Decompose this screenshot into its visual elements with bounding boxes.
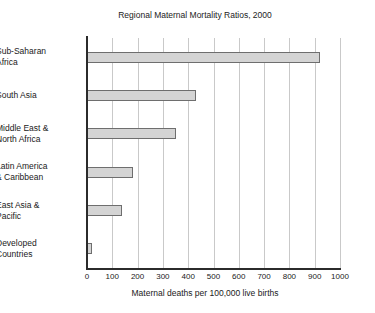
y-tick-label-line: Pacific bbox=[0, 211, 82, 222]
bar[interactable] bbox=[87, 243, 92, 254]
gridline bbox=[214, 38, 215, 268]
gridline bbox=[289, 38, 290, 268]
x-axis-line bbox=[86, 268, 341, 270]
gridline bbox=[112, 38, 113, 268]
y-tick-label: Middle East &North Africa bbox=[0, 123, 82, 145]
bar-row bbox=[87, 52, 340, 63]
y-axis-line bbox=[86, 36, 88, 270]
y-tick-label-line: Sub-Saharan bbox=[0, 46, 82, 57]
gridline bbox=[188, 38, 189, 268]
x-axis-label: Maternal deaths per 100,000 live births bbox=[60, 288, 350, 298]
bar-row bbox=[87, 128, 340, 139]
x-tick-label: 1000 bbox=[325, 272, 355, 281]
y-tick-label-line: Latin America bbox=[0, 161, 82, 172]
bar-row bbox=[87, 205, 340, 216]
chart-figure: Regional Maternal Mortality Ratios, 2000… bbox=[0, 0, 375, 313]
plot-area bbox=[87, 38, 340, 268]
y-tick-label-line: North Africa bbox=[0, 134, 82, 145]
y-tick-label-line: Middle East & bbox=[0, 123, 82, 134]
bar[interactable] bbox=[87, 52, 320, 63]
y-tick-label: East Asia &Pacific bbox=[0, 200, 82, 222]
bar-row bbox=[87, 243, 340, 254]
y-tick-label-line: & Caribbean bbox=[0, 172, 82, 183]
bar-row bbox=[87, 90, 340, 101]
gridline bbox=[340, 38, 341, 268]
y-tick-label-line: East Asia & bbox=[0, 200, 82, 211]
gridline bbox=[138, 38, 139, 268]
gridline bbox=[264, 38, 265, 268]
gridline bbox=[315, 38, 316, 268]
y-tick-label: South Asia bbox=[0, 90, 82, 101]
bar[interactable] bbox=[87, 90, 196, 101]
y-tick-label-line: Countries bbox=[0, 249, 82, 260]
y-tick-label-line: Africa bbox=[0, 57, 82, 68]
gridline bbox=[239, 38, 240, 268]
chart-title: Regional Maternal Mortality Ratios, 2000 bbox=[60, 10, 330, 20]
gridline bbox=[163, 38, 164, 268]
bar[interactable] bbox=[87, 128, 176, 139]
y-tick-label-line: Developed bbox=[0, 238, 82, 249]
bar-row bbox=[87, 167, 340, 178]
y-tick-label-line: South Asia bbox=[0, 90, 82, 101]
y-tick-label: DevelopedCountries bbox=[0, 238, 82, 260]
bar[interactable] bbox=[87, 167, 133, 178]
y-tick-label: Latin America& Caribbean bbox=[0, 161, 82, 183]
bar[interactable] bbox=[87, 205, 122, 216]
y-tick-label: Sub-SaharanAfrica bbox=[0, 46, 82, 68]
